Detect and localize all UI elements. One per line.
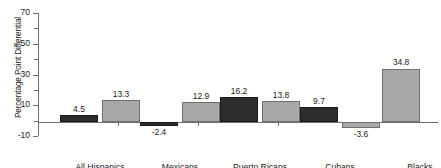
y-tick-60 bbox=[34, 28, 38, 29]
bar-puerto-ricans-series-2 bbox=[262, 101, 300, 122]
category-label-all-hispanics: All Hispanics bbox=[60, 162, 140, 168]
category-separator-tick bbox=[278, 122, 279, 126]
category-separator-tick bbox=[198, 122, 199, 126]
bar-label-puerto-ricans-series-1: 16.2 bbox=[220, 86, 258, 96]
y-tick-50: 50 bbox=[33, 44, 38, 45]
bar-label-mexicans-series-1: -2.4 bbox=[140, 127, 178, 137]
bar-mexicans-series-2 bbox=[182, 102, 220, 122]
y-tick-label-neg10: -10 bbox=[18, 130, 30, 141]
category-label-blacks: Blacks bbox=[380, 162, 441, 168]
bar-label-puerto-ricans-series-2: 13.8 bbox=[262, 90, 300, 100]
category-label-mexicans: Mexicans bbox=[140, 162, 220, 168]
bar-blacks-series-2 bbox=[382, 69, 420, 123]
plot-area: 70 50 30 10 -10 4.5 13.3 -2.4 12.9 bbox=[38, 13, 438, 136]
y-tick-70: 70 bbox=[33, 13, 38, 14]
bar-label-all-hispanics-series-2: 13.3 bbox=[102, 89, 140, 99]
category-label-cubans: Cubans bbox=[300, 162, 380, 168]
y-tick-40 bbox=[34, 59, 38, 60]
bar-label-all-hispanics-series-1: 4.5 bbox=[60, 104, 98, 114]
bar-cubans-series-1 bbox=[300, 107, 338, 122]
bar-label-mexicans-series-2: 12.9 bbox=[182, 91, 220, 101]
bar-label-blacks-series-2: 34.8 bbox=[382, 57, 420, 67]
y-tick-label-50: 50 bbox=[21, 38, 30, 49]
bar-all-hispanics-series-1 bbox=[60, 115, 98, 122]
y-tick-label-70: 70 bbox=[21, 7, 30, 18]
bar-chart: Percentage Point Differential 70 50 30 1… bbox=[0, 0, 441, 168]
bar-label-cubans-series-2: -3.6 bbox=[342, 129, 380, 139]
category-separator-tick bbox=[118, 122, 119, 126]
y-tick-0 bbox=[34, 121, 38, 122]
y-tick-30: 30 bbox=[33, 75, 38, 76]
y-tick-neg10: -10 bbox=[33, 136, 38, 137]
category-label-puerto-ricans: Puerto Ricans bbox=[220, 162, 300, 168]
y-tick-label-10: 10 bbox=[21, 99, 30, 110]
y-tick-20 bbox=[34, 90, 38, 91]
bar-all-hispanics-series-2 bbox=[102, 100, 140, 122]
bar-cubans-series-2 bbox=[342, 122, 380, 128]
bar-puerto-ricans-series-1 bbox=[220, 97, 258, 122]
bar-mexicans-series-1 bbox=[140, 122, 178, 126]
y-tick-10: 10 bbox=[33, 105, 38, 106]
y-axis-line bbox=[38, 13, 39, 136]
y-axis-title: Percentage Point Differential bbox=[14, 3, 23, 133]
bar-label-cubans-series-1: 9.7 bbox=[300, 96, 338, 106]
y-tick-label-30: 30 bbox=[21, 69, 30, 80]
